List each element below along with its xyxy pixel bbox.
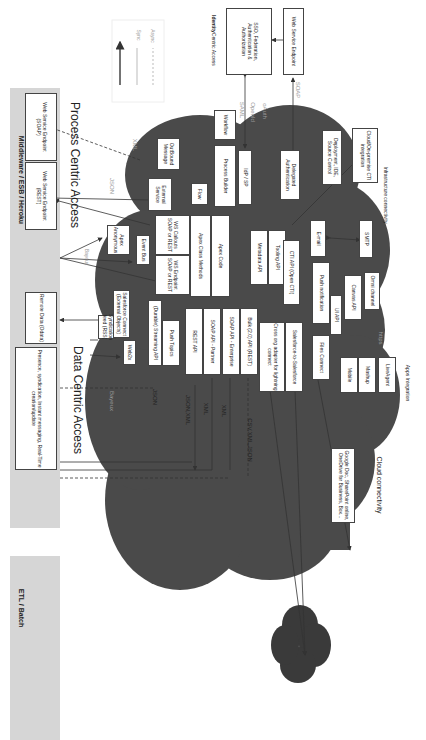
sso-federation-box: SSO, Federation, Authentication & Author… bbox=[226, 8, 272, 75]
ws-endpoint-rest-box: Web Service Endpoint (REST) bbox=[25, 162, 57, 230]
openid-label: OpenId bbox=[248, 100, 258, 124]
identity-title: Identity Centric Access bbox=[208, 15, 218, 95]
push-topics-box: Push Topics bbox=[162, 320, 180, 366]
soap-api-partner-box: SOAP API - Partner bbox=[203, 308, 221, 375]
https-label: https bbox=[376, 328, 386, 348]
salesforce-connect-box: Salesforce Connect (External Objects) bbox=[113, 290, 130, 338]
oauth-label: oAuth bbox=[260, 100, 270, 122]
rest-api-box: REST API bbox=[185, 308, 203, 375]
soap-api-enterprise-box: SOAP API - Enterprise bbox=[222, 308, 240, 375]
xml-label-2: XML bbox=[219, 400, 229, 422]
data-centric-title: Data Centric Access bbox=[69, 340, 85, 460]
bayeux-label: Bayeux bbox=[107, 388, 117, 414]
apex-anonymous-box: Apex Anonymous bbox=[107, 225, 130, 255]
remote-data-box: Remote Data (Odata) bbox=[25, 292, 57, 344]
ws-endpoint-soap-box: Web Service Endpoint (SOAP) bbox=[25, 93, 57, 161]
ui-api-box: UI API bbox=[330, 295, 342, 335]
process-centric-title: Process Centric Access bbox=[66, 100, 82, 230]
mashup-box: Mashup bbox=[358, 357, 376, 393]
json-label: JSON bbox=[150, 386, 160, 408]
cti-api-box: CTI API (Open CTI) bbox=[283, 240, 300, 305]
files-connect-box: Files Connect bbox=[312, 335, 330, 380]
saml-label: SAML bbox=[237, 100, 247, 120]
integration-architecture-diagram: Middleware / ESB / Heroku ETL / Batch Pr… bbox=[0, 0, 426, 740]
legend-sync-label: Sync bbox=[133, 28, 143, 42]
csv-xml-json-label: CSV,XML,JSON bbox=[245, 410, 255, 470]
apex-code-box: Apex Code bbox=[211, 215, 230, 297]
json-xml-label: JSON,XML bbox=[183, 390, 193, 430]
identity-title-bold: Identity bbox=[210, 15, 216, 33]
soap-label: SOAP bbox=[293, 80, 303, 100]
smtp-box: SMTP bbox=[359, 220, 373, 258]
external-service-box: External Service bbox=[148, 178, 172, 211]
email-box: E-mail bbox=[310, 220, 326, 257]
bulk-api-box: Bulk (2.0) API (REST) bbox=[240, 308, 258, 375]
infrastructure-title: Infrastructure connectivity bbox=[380, 160, 390, 230]
etl-band-label: ETL / Batch bbox=[14, 578, 28, 638]
mobile-box: Mobile bbox=[340, 357, 358, 393]
idp-sp-box: IdP / SP bbox=[238, 150, 252, 205]
workflow-box: Workflow bbox=[214, 110, 236, 140]
cloud-connectivity-title: Cloud connectivity bbox=[373, 445, 385, 525]
omni-channel-box: Omni channel bbox=[364, 272, 380, 310]
cti-integration-box: Cloud/On-premise CTI integration bbox=[352, 128, 378, 183]
apex-class-methods-box: Apex Class Methods bbox=[190, 215, 211, 297]
apps-integration-title: Apps Integration bbox=[402, 358, 412, 408]
metadata-api-box: Metadata API bbox=[250, 230, 268, 285]
delegated-auth-box: Delegated Authentication bbox=[280, 150, 300, 200]
canvas-api-box: Canvas API bbox=[344, 275, 362, 320]
salesforce-to-salesforce-box: Salesforce-to-Salesforce bbox=[285, 322, 303, 392]
process-builder-box: Process Builder bbox=[214, 145, 236, 207]
legend-async-label: Async bbox=[147, 28, 157, 44]
ws-callouts-box: WS Callouts SOAP or REST bbox=[155, 215, 190, 255]
outbound-message-box: OutBound Message bbox=[157, 138, 180, 170]
external-cloud-icon bbox=[271, 605, 331, 683]
flow-box: Flow bbox=[191, 183, 208, 205]
xml-label-top: XML bbox=[130, 135, 140, 155]
streaming-api-box: (Durable) Streaming API bbox=[148, 300, 162, 366]
json-label-top: JSON bbox=[107, 175, 117, 197]
deployment-ide-box: Deployment, IDE, Source Control bbox=[322, 130, 342, 185]
cross-org-adapter-box: Cross org adapter for lightning connect bbox=[259, 322, 285, 392]
liveagent-box: LiveAgent bbox=[378, 357, 396, 393]
bayeux-mid-label: Bayeux bbox=[82, 245, 90, 269]
xml-label-1: XML bbox=[201, 398, 211, 420]
identity-ws-endpoint-box: Web Service Endpoint bbox=[283, 8, 304, 75]
web2x-box: Web2x bbox=[123, 340, 136, 365]
push-notification-box: Push notification bbox=[312, 262, 330, 324]
ws-endpoint-box: WS Endpoint SOAP or REST bbox=[155, 255, 190, 295]
presence-syndication-box: Presence, syndication, Instant messaging… bbox=[15, 347, 57, 470]
cloud-services-box: Google Doc, SharePoint online, OneDrive … bbox=[331, 448, 355, 523]
event-bus-box: Event Bus bbox=[136, 235, 150, 265]
identity-title-rest: Centric Access bbox=[210, 33, 216, 66]
